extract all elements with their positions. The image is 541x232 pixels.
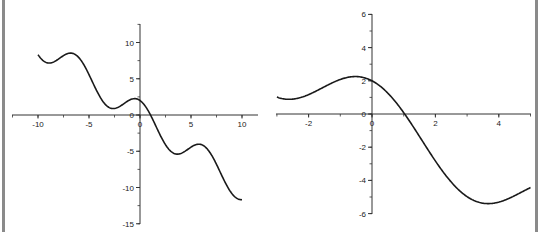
chart-canvas: -10-505101050-5-10-15-20246420-2-4-6 bbox=[0, 0, 541, 232]
y-tick-label: -5 bbox=[127, 147, 135, 156]
x-tick-label: -10 bbox=[32, 120, 44, 129]
y-tick-label: 0 bbox=[130, 111, 135, 120]
x-tick-label: 5 bbox=[189, 120, 194, 129]
x-tick-label: -2 bbox=[305, 119, 313, 128]
x-tick-label: 4 bbox=[497, 119, 502, 128]
y-tick-label: -4 bbox=[359, 176, 367, 185]
y-tick-label: -2 bbox=[359, 143, 367, 152]
x-tick-label: 0 bbox=[370, 119, 375, 128]
y-tick-label: -6 bbox=[359, 210, 367, 219]
x-tick-label: -5 bbox=[85, 120, 93, 129]
y-tick-label: 5 bbox=[130, 75, 135, 84]
y-tick-label: 10 bbox=[125, 39, 134, 48]
data-curve bbox=[277, 77, 531, 204]
y-tick-label: 0 bbox=[362, 110, 367, 119]
y-tick-label: -15 bbox=[122, 220, 134, 229]
x-tick-label: 0 bbox=[138, 120, 143, 129]
y-tick-label: -10 bbox=[122, 184, 134, 193]
x-tick-label: 2 bbox=[433, 119, 438, 128]
y-tick-label: 4 bbox=[362, 44, 367, 53]
y-tick-label: 6 bbox=[362, 10, 367, 19]
x-tick-label: 10 bbox=[238, 120, 247, 129]
